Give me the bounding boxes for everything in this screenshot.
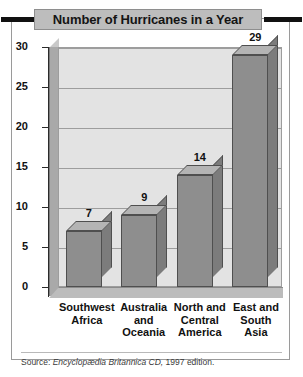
y-tick-label: 0 bbox=[22, 280, 28, 292]
chart-title-box: Number of Hurricanes in a Year bbox=[34, 9, 262, 30]
x-axis-label-line: America bbox=[173, 326, 227, 339]
bar-value-label: 29 bbox=[237, 31, 273, 43]
x-axis-labels: SouthwestAfricaAustraliaandOceaniaNorth … bbox=[58, 301, 284, 349]
x-axis-label: SouthwestAfrica bbox=[58, 301, 116, 349]
bar-front-face bbox=[121, 215, 157, 287]
bar: 14 bbox=[177, 175, 213, 287]
y-tick bbox=[42, 87, 49, 88]
y-tick bbox=[42, 287, 49, 288]
y-tick bbox=[42, 247, 49, 248]
x-axis-label: North andCentralAmerica bbox=[172, 301, 228, 349]
source-prefix: Source: bbox=[21, 357, 50, 367]
bar-front-face bbox=[66, 231, 102, 287]
plot-wrapper: 302520151050 791429 bbox=[30, 38, 282, 296]
bar-front-face bbox=[232, 55, 268, 287]
y-tick-label: 30 bbox=[16, 40, 28, 52]
bar-front-face bbox=[177, 175, 213, 287]
y-tick-label: 15 bbox=[16, 160, 28, 172]
x-axis-label-line: East and bbox=[229, 301, 283, 314]
plot-floor bbox=[49, 287, 283, 298]
chart-title-banner: Number of Hurricanes in a Year bbox=[12, 9, 291, 31]
x-axis-label-line: Central bbox=[173, 314, 227, 327]
source-publication: Encyclopædia Britannica CD, bbox=[53, 357, 164, 367]
source-divider bbox=[21, 352, 282, 353]
x-axis-label-line: South Asia bbox=[229, 314, 283, 339]
title-rule-right bbox=[264, 17, 302, 22]
y-tick bbox=[42, 127, 49, 128]
x-axis-label-line: Southwest bbox=[59, 301, 115, 314]
y-tick-label: 20 bbox=[16, 120, 28, 132]
x-axis-label-line: North and bbox=[173, 301, 227, 314]
y-tick-label: 25 bbox=[16, 80, 28, 92]
x-axis-label-line: and bbox=[117, 314, 171, 327]
bar-value-label: 14 bbox=[182, 151, 218, 163]
source-note: Source: Encyclopædia Britannica CD, 1997… bbox=[21, 357, 214, 367]
bar-value-label: 7 bbox=[71, 207, 107, 219]
chart-title: Number of Hurricanes in a Year bbox=[53, 12, 243, 27]
bar: 9 bbox=[121, 215, 157, 287]
chart-figure: Number of Hurricanes in a Year 302520151… bbox=[11, 18, 290, 360]
y-tick bbox=[42, 207, 49, 208]
bar: 29 bbox=[232, 55, 268, 287]
bar-side-face bbox=[268, 35, 278, 277]
x-axis-label-line: Australia bbox=[117, 301, 171, 314]
source-edition: 1997 edition. bbox=[166, 357, 215, 367]
x-axis-label: AustraliaandOceania bbox=[116, 301, 172, 349]
bar: 7 bbox=[66, 231, 102, 287]
y-tick-label: 5 bbox=[22, 240, 28, 252]
y-tick bbox=[42, 167, 49, 168]
y-tick bbox=[42, 47, 49, 48]
x-axis-label-line: Africa bbox=[59, 314, 115, 327]
bar-value-label: 9 bbox=[126, 191, 162, 203]
y-axis bbox=[48, 47, 49, 297]
x-axis-label-line: Oceania bbox=[117, 326, 171, 339]
y-tick-label: 10 bbox=[16, 200, 28, 212]
x-axis-label: East andSouth Asia bbox=[228, 301, 284, 349]
